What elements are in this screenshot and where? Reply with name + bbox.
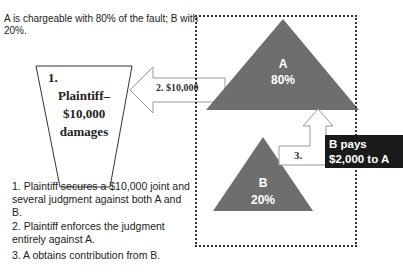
callout-line2: $2,000 to A	[329, 152, 403, 167]
plaintiff-step: 1.	[48, 70, 58, 86]
triangle-b-percent: 20%	[238, 192, 288, 208]
triangle-a-name: A	[258, 56, 308, 72]
contribution-callout: B pays $2,000 to A	[325, 135, 403, 168]
arrow-3-label: 3.	[294, 149, 302, 161]
callout-line1: B pays	[329, 137, 403, 152]
plaintiff-label: Plaintiff–	[44, 88, 124, 104]
arrow-2-label: 2. $10,000	[156, 82, 199, 93]
triangle-a-percent: 80%	[258, 72, 308, 88]
note-3: 3. A obtains contribution from B.	[12, 249, 192, 262]
note-1: 1. Plaintiff secures a $10,000 joint and…	[12, 180, 192, 219]
steps-notes: 1. Plaintiff secures a $10,000 joint and…	[12, 180, 192, 263]
defendants-group-border	[195, 15, 357, 247]
plaintiff-sub: damages	[44, 124, 124, 140]
note-2: 2. Plaintiff enforces the judgment entir…	[12, 220, 192, 246]
plaintiff-amount: $10,000	[44, 106, 124, 122]
triangle-b-name: B	[238, 175, 288, 191]
